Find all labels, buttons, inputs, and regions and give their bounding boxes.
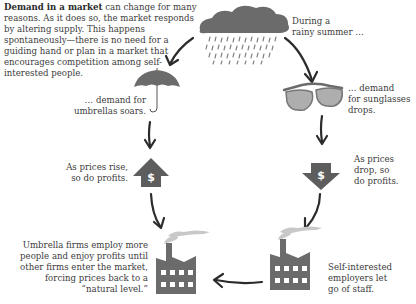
dollar-up-arrow-icon: $ (133, 158, 169, 187)
factory-icon (270, 227, 322, 291)
arrow-umbrella-to-price (149, 122, 150, 146)
sunglasses-icon (284, 84, 342, 111)
arrow-price-down-to-factory (306, 194, 320, 228)
umbrella-icon (134, 68, 180, 112)
arrow-cloud-to-sunglasses (285, 38, 312, 80)
dollar-down-arrow-icon: $ (302, 163, 340, 190)
diagram-graphics: $ $ (0, 0, 416, 304)
rain-cloud-icon (200, 6, 289, 64)
arrow-cloud-to-umbrella (170, 38, 193, 64)
arrow-price-up-to-factory (151, 194, 160, 226)
svg-text:$: $ (317, 169, 325, 182)
arrow-sunglasses-to-price (321, 116, 322, 142)
arrow-factory-to-factory (216, 280, 262, 283)
factory-icon (156, 231, 210, 295)
svg-text:$: $ (147, 171, 155, 184)
